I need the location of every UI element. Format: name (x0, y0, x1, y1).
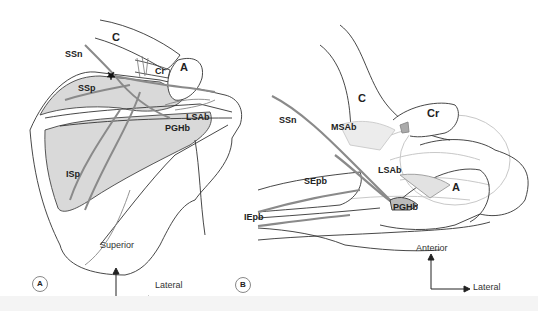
label-lsab-b: LSAb (378, 166, 402, 175)
orientation-lateral-b: Lateral (473, 283, 501, 292)
label-lsab-a: LSAb (186, 113, 210, 122)
label-clavicle-b: C (358, 93, 366, 104)
orientation-lateral-a: Lateral (155, 281, 183, 290)
orientation-arrows-b (428, 254, 470, 292)
panel-badge-b: B (235, 277, 251, 293)
label-clavicle-a: C (112, 32, 120, 43)
label-coracoid-b: Cr (427, 108, 439, 119)
label-msab-b: MSAb (331, 123, 357, 132)
label-acromion-a: A (180, 62, 188, 73)
panel-badge-a: A (32, 276, 48, 292)
label-sepb-b: SEpb (304, 177, 327, 186)
label-pghb-b: PGHb (393, 203, 418, 212)
footer-band (0, 296, 538, 311)
label-ssn-a: SSn (65, 50, 83, 59)
label-iepb-b: IEpb (244, 213, 264, 222)
label-supraspinatus-a: SSp (78, 84, 96, 93)
label-ssn-b: SSn (279, 116, 297, 125)
label-acromion-b: A (452, 182, 460, 193)
panel-a-drawing (30, 20, 242, 275)
label-infraspinatus-a: ISp (66, 170, 80, 179)
label-pghb-a: PGHb (165, 124, 190, 133)
orientation-superior: Superior (100, 241, 134, 250)
orientation-anterior: Anterior (416, 244, 448, 253)
illustration (0, 0, 538, 311)
anatomy-figure: C SSn A Cr SSp LSAb PGHb ISp Superior La… (0, 0, 538, 311)
panel-b-drawing (258, 25, 528, 251)
label-coracoid-a: Cr (155, 67, 165, 76)
